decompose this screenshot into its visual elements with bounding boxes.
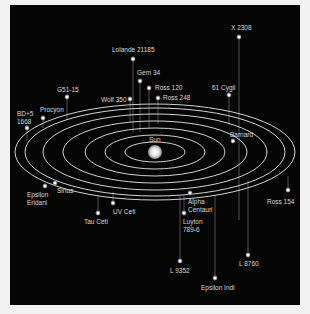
star-label: G51-15 bbox=[57, 86, 79, 94]
star-icon bbox=[179, 260, 182, 263]
star-label: Barnard bbox=[230, 131, 253, 139]
star-icon bbox=[132, 58, 135, 61]
star-label: Alpha Centauri bbox=[188, 198, 213, 213]
star-icon bbox=[232, 140, 235, 143]
sun-icon bbox=[148, 145, 162, 159]
star-icon bbox=[148, 87, 151, 90]
star-label: Ross 154 bbox=[267, 198, 294, 206]
star-label: Luyton 789-6 bbox=[183, 218, 203, 233]
star-label: Procyon bbox=[40, 106, 64, 114]
star-icon bbox=[214, 277, 217, 280]
star-icon bbox=[238, 36, 241, 39]
star-label: Epsilon Eridani bbox=[27, 191, 48, 206]
star-label: X 2308 bbox=[231, 24, 252, 32]
star-label: BD+5 1668 bbox=[17, 110, 33, 125]
star-label: Wolf 350 bbox=[101, 96, 127, 104]
star-label: L 8760 bbox=[239, 260, 259, 268]
star-icon bbox=[26, 127, 29, 130]
sun-label: Sun bbox=[149, 136, 161, 144]
star-label: UV Ceti bbox=[113, 208, 135, 216]
star-icon bbox=[44, 185, 47, 188]
star-icon bbox=[189, 192, 192, 195]
star-icon bbox=[228, 94, 231, 97]
star-icon bbox=[287, 189, 290, 192]
star-label: Epsilon Indi bbox=[201, 284, 235, 292]
star-icon bbox=[139, 80, 142, 83]
star-icon bbox=[42, 117, 45, 120]
star-label: Ross 120 bbox=[155, 84, 182, 92]
star-icon bbox=[112, 202, 115, 205]
star-label: Gem 34 bbox=[137, 69, 160, 77]
star-label: Sirius bbox=[57, 187, 73, 195]
star-label: Ross 248 bbox=[163, 94, 190, 102]
star-icon bbox=[247, 254, 250, 257]
star-icon bbox=[129, 98, 132, 101]
star-label: L 9352 bbox=[170, 267, 190, 275]
star-icon bbox=[183, 212, 186, 215]
star-icon bbox=[66, 96, 69, 99]
star-map-diagram bbox=[0, 0, 310, 314]
star-icon bbox=[54, 182, 57, 185]
star-icon bbox=[97, 212, 100, 215]
star-label: Tau Ceti bbox=[84, 218, 108, 226]
star-label: Lolande 21185 bbox=[112, 46, 155, 54]
star-icon bbox=[157, 97, 160, 100]
star-label: 61 Cygil bbox=[212, 84, 235, 92]
